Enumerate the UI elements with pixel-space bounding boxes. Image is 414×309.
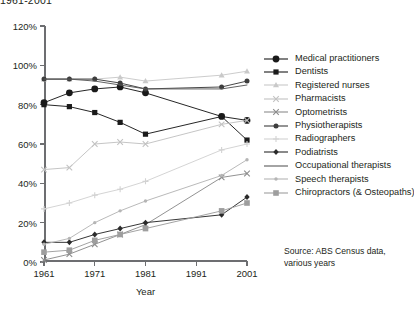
legend-item[interactable]: Chiropractors (& Osteopaths) [262,186,414,199]
legend-marker-icon [262,173,290,185]
x-tick-label: 2001 [236,268,257,279]
legend-item[interactable]: Occupational therapists [262,159,414,172]
legend-item[interactable]: Speech therapists [262,173,414,186]
legend-item[interactable]: Optometrists [262,106,414,119]
legend-label: Pharmacists [295,94,346,103]
legend-marker-icon [262,133,290,145]
source-note: Source: ABS Census data, various years [284,245,386,270]
y-tick-label: 0% [23,257,37,268]
chart-title: 1961-2001 [0,0,52,6]
legend-marker-icon [262,187,290,199]
legend-item[interactable]: Physiotherapists [262,119,414,132]
legend-marker-icon [262,106,290,118]
legend-label: Dentists [295,67,328,76]
legend-marker-icon [262,79,290,91]
legend-label: Occupational therapists [295,161,391,170]
y-tick-label: 60% [18,139,37,150]
legend-label: Optometrists [295,108,347,117]
legend-label: Registered nurses [295,81,370,90]
series-pharmacists [41,118,250,173]
legend-label: Radiographers [295,134,355,143]
y-tick-label: 40% [18,178,37,189]
series-lines [44,26,247,262]
legend-marker-icon [262,146,290,158]
x-tick-label: 1961 [33,268,54,279]
legend-label: Podiatrists [295,148,338,157]
x-axis-title: Year [44,286,247,297]
legend: Medical practitionersDentistsRegistered … [262,52,414,199]
legend-marker-icon [262,66,290,78]
series-registered-nurses [41,68,250,83]
legend-label: Physiotherapists [295,121,362,130]
legend-item[interactable]: Radiographers [262,132,414,145]
x-tick-label: 1981 [135,268,156,279]
y-tick-label: 80% [18,99,37,110]
series-chiropractors-osteopaths [41,200,250,255]
legend-marker-icon [262,93,290,105]
legend-label: Speech therapists [295,175,369,184]
x-tick-label: 1991 [186,268,207,279]
legend-label: Chiropractors (& Osteopaths) [295,188,414,197]
legend-marker-icon [262,120,290,132]
legend-marker-icon [262,160,290,172]
y-tick-label: 100% [13,60,37,71]
source-line-1: Source: ABS Census data, [284,245,386,257]
x-tick-label: 1971 [84,268,105,279]
legend-item[interactable]: Medical practitioners [262,52,414,65]
y-tick-label: 120% [13,21,37,32]
source-line-2: various years [284,257,386,269]
legend-label: Medical practitioners [295,54,379,63]
legend-item[interactable]: Pharmacists [262,92,414,105]
legend-item[interactable]: Registered nurses [262,79,414,92]
legend-item[interactable]: Podiatrists [262,146,414,159]
legend-marker-icon [262,53,290,65]
series-dentists [41,102,249,143]
legend-item[interactable]: Dentists [262,65,414,78]
y-tick-label: 20% [18,217,37,228]
plot-area: 0%20%40%60%80%100%120%196119711981199120… [44,26,247,262]
